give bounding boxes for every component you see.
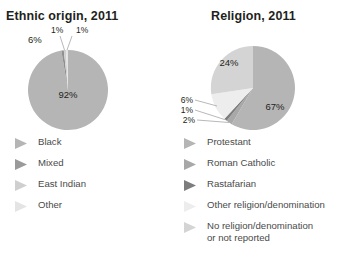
leader-line-roman-catholic — [197, 120, 229, 123]
legend-label-roman-catholic: Roman Catholic — [207, 157, 275, 169]
legend-item-rastafarian[interactable]: Rastafarian — [183, 178, 342, 192]
legend-label-no-religion: No religion/denomination or not reported — [207, 220, 313, 243]
triangle-right-icon — [183, 200, 198, 213]
legend-label-other-religion: Other religion/denomination — [207, 199, 325, 211]
religion-pie-svg: 67% 24% 6% 1% 2% — [171, 26, 342, 134]
slice-label-other-religion: 6% — [181, 95, 194, 105]
triangle-right-icon — [183, 158, 198, 171]
slice-label-roman-catholic: 2% — [183, 115, 196, 125]
slice-label-rastafarian: 1% — [181, 105, 194, 115]
ethnic-origin-legend: Black Mixed East Indian Other — [14, 136, 174, 220]
legend-item-no-religion[interactable]: No religion/denomination or not reported — [183, 220, 342, 243]
slice-label-black: 92% — [58, 89, 78, 100]
legend-item-roman-catholic[interactable]: Roman Catholic — [183, 157, 342, 171]
ethnic-origin-pie: 92% 6% 1% 1% — [0, 26, 171, 134]
slice-label-other: 1% — [76, 26, 89, 35]
ethnic-origin-pie-svg: 92% 6% 1% 1% — [0, 26, 171, 134]
pie-charts-figure: Ethnic origin, 2011 92% 6% 1% 1% — [0, 0, 342, 261]
legend-label-rastafarian: Rastafarian — [207, 178, 256, 190]
religion-legend: Protestant Roman Catholic Rastafarian Ot… — [183, 136, 342, 250]
triangle-right-icon — [183, 137, 198, 150]
page-title-ethnic-origin: Ethnic origin, 2011 — [6, 9, 166, 23]
legend-item-protestant[interactable]: Protestant — [183, 136, 342, 150]
triangle-right-icon — [14, 200, 29, 213]
leader-line-other — [67, 36, 72, 50]
triangle-right-icon — [14, 179, 29, 192]
religion-pie: 67% 24% 6% 1% 2% — [171, 26, 342, 134]
religion-panel: Religion, 2011 67% 24% 6% — [171, 0, 342, 261]
slice-label-no-religion: 24% — [219, 57, 239, 68]
triangle-right-icon — [183, 179, 198, 192]
legend-label-protestant: Protestant — [207, 136, 251, 148]
slice-label-mixed: 6% — [28, 34, 42, 45]
triangle-right-icon — [183, 221, 198, 234]
triangle-right-icon — [14, 137, 29, 150]
leader-line-east-indian — [60, 36, 65, 50]
legend-item-other[interactable]: Other — [14, 199, 174, 213]
pie-slice-no-religion — [211, 46, 253, 94]
legend-item-east-indian[interactable]: East Indian — [14, 178, 174, 192]
legend-item-other-religion[interactable]: Other religion/denomination — [183, 199, 342, 213]
legend-label-other: Other — [38, 199, 62, 211]
legend-label-black: Black — [38, 136, 61, 148]
legend-label-east-indian: East Indian — [38, 178, 86, 190]
legend-item-mixed[interactable]: Mixed — [14, 157, 174, 171]
legend-label-mixed: Mixed — [38, 157, 64, 169]
ethnic-origin-panel: Ethnic origin, 2011 92% 6% 1% 1% — [0, 0, 171, 261]
legend-item-black[interactable]: Black — [14, 136, 174, 150]
slice-label-protestant: 67% — [265, 101, 285, 112]
slice-label-east-indian: 1% — [51, 26, 64, 35]
triangle-right-icon — [14, 158, 29, 171]
page-title-religion: Religion, 2011 — [171, 9, 336, 23]
